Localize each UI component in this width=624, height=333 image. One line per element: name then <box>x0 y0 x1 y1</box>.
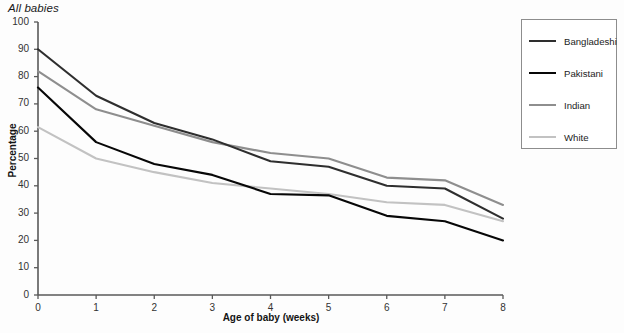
legend-label: Bangladeshi <box>564 36 617 47</box>
series-line-pakistani <box>38 88 503 241</box>
legend-item-white[interactable]: White <box>529 130 589 144</box>
legend-item-indian[interactable]: Indian <box>529 98 590 112</box>
legend-swatch-pakistani <box>529 72 556 74</box>
legend-swatch-indian <box>529 104 556 106</box>
series-lines <box>38 49 503 240</box>
axis-lines <box>38 22 503 295</box>
legend-label: Pakistani <box>564 68 603 79</box>
legend: BangladeshiPakistaniIndianWhite <box>521 19 617 149</box>
legend-swatch-white <box>529 136 556 138</box>
legend-item-pakistani[interactable]: Pakistani <box>529 66 603 80</box>
series-line-indian <box>38 71 503 205</box>
legend-swatch-bangladeshi <box>529 40 556 42</box>
series-line-white <box>38 127 503 221</box>
legend-label: White <box>564 132 589 143</box>
legend-item-bangladeshi[interactable]: Bangladeshi <box>529 34 617 48</box>
legend-label: Indian <box>564 100 590 111</box>
chart-figure: All babies Percentage Age of baby (weeks… <box>0 0 624 333</box>
